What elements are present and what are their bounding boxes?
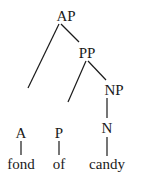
node-pp: PP xyxy=(79,46,96,61)
node-n: N xyxy=(102,121,113,136)
node-ap: AP xyxy=(56,9,75,24)
node-p: P xyxy=(55,126,63,141)
branch-ap-a xyxy=(28,24,59,88)
node-a: A xyxy=(16,126,27,141)
syntax-tree: AP PP NP A P N fond of candy xyxy=(0,0,144,181)
node-np: NP xyxy=(104,83,123,98)
branch-pp-p xyxy=(68,61,86,102)
branch-pp-np xyxy=(88,61,106,80)
branch-ap-pp xyxy=(61,24,79,42)
leaf-of: of xyxy=(53,157,66,172)
leaf-fond: fond xyxy=(7,157,35,172)
leaf-candy: candy xyxy=(89,157,125,172)
